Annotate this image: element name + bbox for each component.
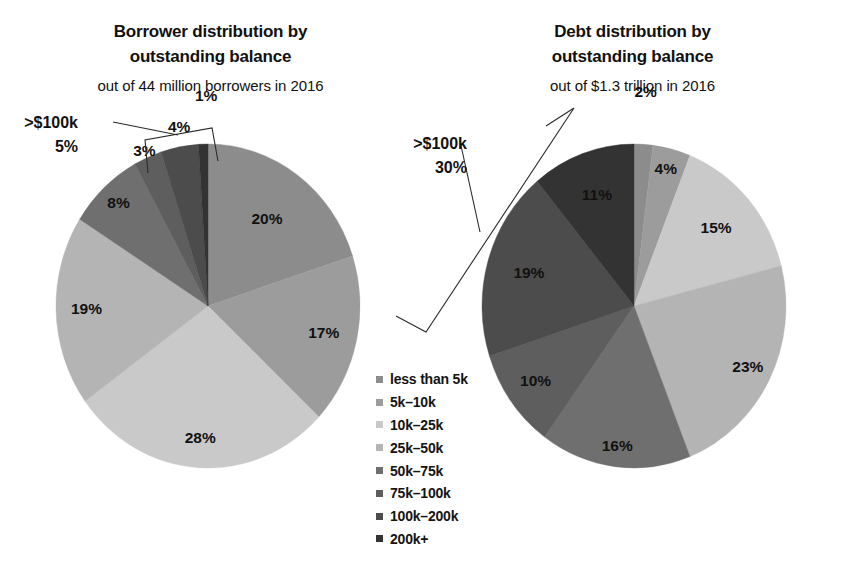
legend-swatch-icon — [376, 376, 383, 383]
chart-panel-borrower-distribution: Borrower distribution by outstanding bal… — [0, 0, 421, 576]
pie-slice-label: 16% — [602, 437, 633, 454]
left-pie-svg: 20%17%28%19%8%3%4%1% >$100k 5% — [0, 104, 421, 484]
right-callout-label-line-2: 30% — [435, 159, 467, 176]
legend-item[interactable]: 10k–25k — [376, 414, 496, 437]
legend-swatch-icon — [376, 399, 383, 406]
legend-item[interactable]: 25k–50k — [376, 436, 496, 459]
legend-item-label: 10k–25k — [390, 417, 443, 433]
legend-item[interactable]: 100k–200k — [376, 505, 496, 528]
left-title-line-1: Borrower distribution by — [0, 20, 421, 45]
left-callout-label-line-2: 5% — [55, 138, 78, 155]
legend-item[interactable]: 50k–75k — [376, 459, 496, 482]
left-title-line-2: outstanding balance — [0, 45, 421, 70]
legend-item[interactable]: 5k–10k — [376, 391, 496, 414]
pie-slice-label: 4% — [655, 160, 678, 177]
legend-swatch-icon — [376, 421, 383, 428]
pie-slice-label: 1% — [195, 87, 218, 104]
pie-slice-label: 19% — [513, 264, 544, 281]
figure-root: Borrower distribution by outstanding bal… — [0, 0, 843, 576]
left-chart-title: Borrower distribution by outstanding bal… — [0, 20, 421, 69]
pie-slice-label: 2% — [634, 83, 657, 100]
pie-slice-label: 10% — [520, 372, 551, 389]
right-chart-subtitle: out of $1.3 trillion in 2016 — [422, 77, 843, 94]
right-callout-label-line-1: >$100k — [413, 135, 467, 152]
legend-item-label: 100k–200k — [390, 508, 458, 524]
legend-item-label: 200k+ — [390, 531, 428, 547]
right-title-line-1: Debt distribution by — [422, 20, 843, 45]
pie-slice-label: 23% — [732, 358, 763, 375]
pie-slice-label: 19% — [71, 300, 102, 317]
legend-swatch-icon — [376, 444, 383, 451]
legend-item-label: 25k–50k — [390, 440, 443, 456]
pie-slice-label: 8% — [107, 194, 130, 211]
pie-slice-label: 17% — [308, 324, 339, 341]
right-chart-title: Debt distribution by outstanding balance — [422, 20, 843, 69]
right-pie-slices — [482, 144, 786, 468]
legend-item-label: 75k–100k — [390, 485, 451, 501]
right-callout-leader — [460, 141, 480, 232]
pie-slice-label: 20% — [251, 210, 282, 227]
pie-slice-label: 28% — [185, 429, 216, 446]
pie-slice-label: 11% — [582, 186, 612, 203]
legend-item[interactable]: 200k+ — [376, 528, 496, 551]
legend-swatch-icon — [376, 467, 383, 474]
legend: less than 5k5k–10k10k–25k25k–50k50k–75k7… — [376, 368, 496, 550]
legend-item[interactable]: less than 5k — [376, 368, 496, 391]
legend-swatch-icon — [376, 535, 383, 542]
legend-item-label: less than 5k — [390, 371, 468, 387]
right-title-line-2: outstanding balance — [422, 45, 843, 70]
pie-slice-label: 3% — [133, 142, 156, 159]
pie-slice-label: 15% — [701, 219, 732, 236]
legend-item-label: 50k–75k — [390, 463, 443, 479]
left-pie-container: 20%17%28%19%8%3%4%1% >$100k 5% — [0, 104, 421, 484]
legend-swatch-icon — [376, 513, 383, 520]
legend-item[interactable]: 75k–100k — [376, 482, 496, 505]
left-callout-label-line-1: >$100k — [24, 114, 78, 131]
legend-item-label: 5k–10k — [390, 394, 436, 410]
legend-swatch-icon — [376, 490, 383, 497]
